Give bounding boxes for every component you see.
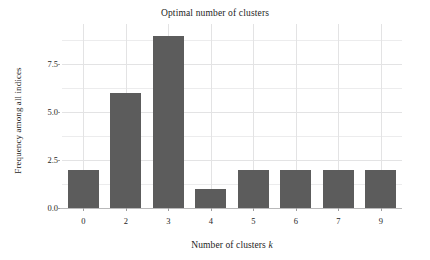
- y-tick-label: 2.5: [30, 155, 58, 165]
- x-axis-label: Number of clusters k: [62, 239, 402, 251]
- x-tick-mark: [126, 208, 127, 211]
- bar: [365, 170, 396, 208]
- y-tick-label: 0.0: [30, 203, 58, 213]
- x-axis-label-text: Number of clusters: [191, 240, 268, 250]
- x-tick-label: 5: [238, 216, 268, 226]
- bar: [195, 189, 226, 208]
- x-tick-mark: [83, 208, 84, 211]
- bar: [68, 170, 99, 208]
- chart-figure: Optimal number of clusters Frequency amo…: [0, 0, 430, 260]
- y-tick-mark: [57, 112, 60, 113]
- bar: [110, 93, 141, 208]
- plot-area: [62, 24, 402, 208]
- x-tick-label: 7: [323, 216, 353, 226]
- x-tick-label: 0: [68, 216, 98, 226]
- x-tick-mark: [338, 208, 339, 211]
- x-tick-mark: [253, 208, 254, 211]
- x-tick-label: 9: [366, 216, 396, 226]
- y-tick-label: 5.0: [30, 107, 58, 117]
- chart-title: Optimal number of clusters: [0, 7, 430, 19]
- x-tick-mark: [168, 208, 169, 211]
- x-tick-label: 4: [196, 216, 226, 226]
- gridline-vertical: [211, 24, 212, 208]
- bar: [323, 170, 354, 208]
- bar: [238, 170, 269, 208]
- y-tick-label: 7.5: [30, 59, 58, 69]
- x-tick-mark: [381, 208, 382, 211]
- y-tick-mark: [57, 160, 60, 161]
- y-tick-mark: [57, 208, 60, 209]
- x-tick-label: 3: [153, 216, 183, 226]
- bar: [153, 36, 184, 209]
- gridline-horizontal: [62, 64, 402, 65]
- y-axis-ticks: 0.02.55.07.5: [26, 0, 58, 260]
- x-tick-mark: [211, 208, 212, 211]
- gridline-horizontal-minor: [62, 88, 402, 89]
- x-axis-label-variable: k: [268, 240, 272, 250]
- gridline-horizontal-minor: [62, 40, 402, 41]
- x-tick-label: 2: [111, 216, 141, 226]
- x-tick-label: 6: [281, 216, 311, 226]
- y-axis-label: Frequency among all indices: [13, 31, 24, 211]
- bar: [280, 170, 311, 208]
- x-axis-ticks: 02345679: [62, 208, 402, 238]
- x-tick-mark: [296, 208, 297, 211]
- y-tick-mark: [57, 64, 60, 65]
